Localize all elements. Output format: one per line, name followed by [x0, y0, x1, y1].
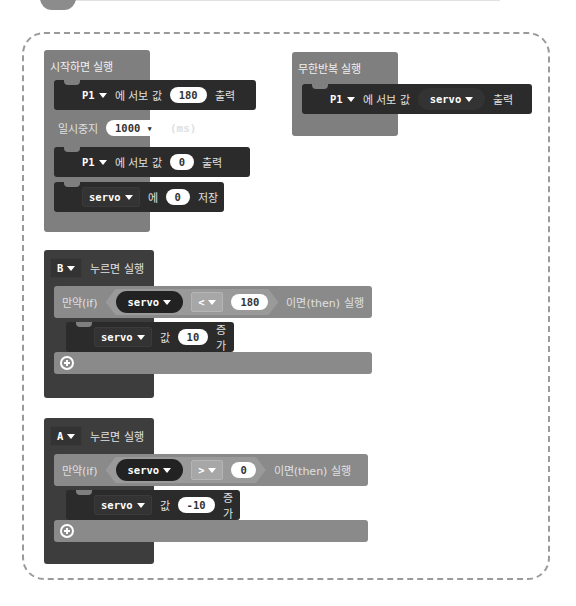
variable-dropdown[interactable]: servo [94, 495, 152, 515]
pin-dropdown[interactable]: P1 [330, 93, 355, 105]
chevron-down-icon [163, 300, 171, 305]
forever-label: 무한반복 실행 [298, 60, 362, 76]
value-input[interactable]: 180 [170, 87, 207, 103]
compare-value-input[interactable]: 0 [231, 462, 255, 478]
chevron-down-icon [99, 93, 107, 98]
pause-block[interactable]: 일시중지 1000 ▾ (ms) [58, 120, 196, 136]
chevron-down-icon [99, 160, 107, 165]
block-suffix: 증가 [216, 321, 234, 353]
compare-value-input[interactable]: 180 [231, 294, 268, 310]
chevron-down-icon [67, 434, 75, 439]
block-text: 에 서보 값 [363, 91, 410, 107]
chevron-down-icon [163, 468, 171, 473]
block-text: 에 서보 값 [115, 87, 162, 103]
pause-dropdown[interactable]: 1000 ▾ [106, 120, 162, 136]
variable-dropdown[interactable]: servo [418, 88, 486, 110]
variable-dropdown[interactable]: servo [82, 187, 140, 207]
header-divider [70, 0, 500, 1]
chevron-down-icon [208, 468, 216, 473]
block-text: 에 [148, 189, 158, 205]
block-suffix: 출력 [215, 87, 235, 103]
add-else-icon[interactable] [60, 524, 74, 538]
block-text: 에 서보 값 [115, 154, 162, 170]
servo-write-block-forever[interactable]: P1 에 서보 값 servo 출력 [302, 84, 532, 114]
condition[interactable]: servo > 0 [106, 457, 266, 483]
button-dropdown[interactable]: B [50, 258, 82, 278]
if-label: 만약(if) [62, 294, 98, 310]
variable-dropdown[interactable]: servo [116, 291, 184, 313]
value-input[interactable]: 0 [166, 189, 190, 205]
operator-dropdown[interactable]: > [191, 460, 223, 480]
variable-dropdown[interactable]: servo [94, 327, 152, 347]
pause-label: 일시중지 [58, 120, 98, 136]
block-text: 값 [160, 329, 170, 345]
block-suffix: 저장 [198, 189, 218, 205]
chevron-down-icon [137, 335, 145, 340]
change-variable-block-a[interactable]: servo 값 -10 증가 [66, 490, 240, 520]
pin-dropdown[interactable]: P1 [82, 156, 107, 168]
variable-dropdown[interactable]: servo [116, 459, 184, 481]
event-label: 누르면 실행 [90, 260, 144, 276]
event-label: 누르면 실행 [90, 428, 144, 444]
header-tab [40, 0, 76, 10]
if-block-a-footer [54, 520, 368, 542]
if-block-b-footer [54, 352, 372, 374]
pause-unit: (ms) [170, 122, 197, 135]
value-input[interactable]: 10 [178, 329, 209, 345]
on-start-label: 시작하면 실행 [50, 58, 114, 74]
chevron-down-icon [465, 97, 473, 102]
then-label: 이면(then) 실행 [274, 462, 351, 478]
block-suffix: 출력 [202, 154, 222, 170]
chevron-down-icon [137, 503, 145, 508]
condition[interactable]: servo < 180 [106, 289, 279, 315]
block-suffix: 증가 [223, 489, 240, 521]
operator-dropdown[interactable]: < [191, 292, 223, 312]
chevron-down-icon [347, 97, 355, 102]
value-input[interactable]: -10 [178, 497, 215, 513]
block-text: 값 [160, 497, 170, 513]
add-else-icon[interactable] [60, 356, 74, 370]
pin-dropdown[interactable]: P1 [82, 89, 107, 101]
value-input[interactable]: 0 [170, 154, 194, 170]
block-suffix: 출력 [493, 91, 513, 107]
set-variable-block[interactable]: servo 에 0 저장 [54, 182, 224, 212]
chevron-down-icon [208, 300, 216, 305]
button-dropdown[interactable]: A [50, 426, 82, 446]
if-label: 만약(if) [62, 462, 98, 478]
if-block-b[interactable]: 만약(if) servo < 180 이면(then) 실행 [54, 286, 372, 318]
chevron-down-icon [67, 266, 75, 271]
change-variable-block-b[interactable]: servo 값 10 증가 [66, 322, 234, 352]
if-block-a[interactable]: 만약(if) servo > 0 이면(then) 실행 [54, 454, 368, 486]
chevron-down-icon [125, 195, 133, 200]
then-label: 이면(then) 실행 [286, 294, 363, 310]
servo-write-block-2[interactable]: P1 에 서보 값 0 출력 [54, 147, 250, 177]
servo-write-block-1[interactable]: P1 에 서보 값 180 출력 [54, 80, 256, 110]
